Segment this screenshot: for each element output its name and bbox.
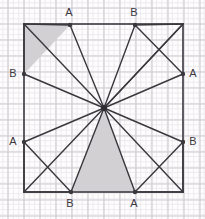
vertex-dot-B-top: [133, 23, 137, 27]
vertex-dot-A-bottom: [133, 190, 137, 194]
point-label-B-top: B: [130, 6, 137, 18]
point-label-B-left: B: [9, 67, 16, 79]
point-label-A-top: A: [65, 6, 73, 18]
vertex-dot-B-left: [22, 72, 26, 76]
chord-tr-2: [135, 24, 183, 25]
ray-to-corner-tr: [104, 24, 183, 108]
ray-to-corner-tl: [24, 24, 104, 108]
vertex-dot-B-bottom: [69, 190, 73, 194]
vertex-dot-A-top: [68, 23, 72, 27]
geometry-figure: ABBAABBA: [0, 0, 205, 219]
ray-to-A-right: [104, 74, 183, 108]
point-label-A-right: A: [189, 67, 197, 79]
geometry-canvas: ABBAABBA: [0, 0, 205, 219]
chord-tl-1: [24, 24, 70, 25]
center-point-dot: [101, 105, 107, 111]
vertex-dot-A-right: [181, 72, 185, 76]
vertex-dot-A-left: [22, 140, 26, 144]
vertex-dot-B-right: [181, 140, 185, 144]
point-label-B-bottom: B: [66, 197, 73, 209]
point-label-A-left: A: [9, 135, 17, 147]
point-label-A-bottom: A: [130, 197, 138, 209]
shaded-bottom-center: [71, 108, 135, 192]
point-label-B-right: B: [189, 135, 196, 147]
